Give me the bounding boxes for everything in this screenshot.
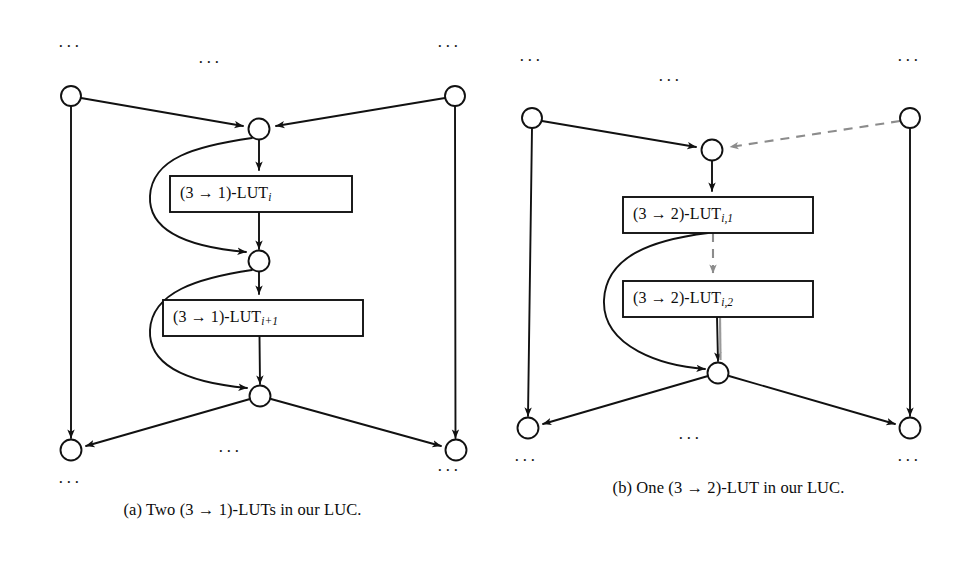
edge-bottomnode-to-bottomleft [543, 376, 708, 424]
lut-box-1-label: (3 → 1)-LUTi [180, 185, 271, 204]
node-center-bottom [250, 386, 271, 407]
node-center-bottom [708, 363, 729, 384]
lut-box-1-label: (3 → 2)-LUTi,1 [633, 206, 733, 225]
figure-page: (3 → 1)-LUTi (3 → 1)-LUTi+1 ··· ··· ··· … [0, 0, 971, 563]
edge-topleft-to-center [81, 98, 243, 126]
edge-lut2-to-bottomnode [260, 336, 261, 384]
edge-topleft-to-bottomleft [528, 128, 532, 416]
ellipsis-top-center: ··· [198, 54, 222, 71]
panel-a-caption: (a) Two (3 → 1)-LUTs in our LUC. [0, 500, 485, 520]
node-top-right [445, 86, 465, 106]
edge-topright-to-bottomright [455, 106, 456, 438]
node-top-left [61, 86, 81, 106]
edge-topright-to-center-dashed [730, 121, 900, 147]
ellipsis-bottom-center: ··· [678, 430, 702, 447]
ellipsis-bottom-left: ··· [58, 474, 82, 491]
edge-topleft-to-center [542, 121, 696, 147]
figure-panel-a: (3 → 1)-LUTi (3 → 1)-LUTi+1 ··· ··· ··· … [0, 0, 485, 563]
edge-bottomnode-to-bottomright [729, 376, 895, 424]
ellipsis-top-center: ··· [658, 72, 682, 89]
node-center-mid [249, 251, 270, 272]
lut-box-2-label: (3 → 1)-LUTi+1 [173, 309, 278, 328]
node-bottom-left [61, 440, 82, 461]
ellipsis-bottom-left: ··· [514, 452, 538, 469]
edge-bottomnode-to-bottomleft [86, 399, 250, 446]
ellipsis-top-right: ··· [437, 38, 461, 55]
node-bottom-left [518, 418, 539, 439]
ellipsis-top-left: ··· [519, 52, 543, 69]
panel-b-caption: (b) One (3 → 2)-LUT in our LUC. [486, 478, 971, 498]
ellipsis-top-right: ··· [897, 52, 921, 69]
edge-lut2-to-bottomnode [717, 317, 718, 361]
edge-topright-to-center [276, 98, 445, 126]
ellipsis-bottom-right: ··· [897, 452, 921, 469]
node-top-left [522, 108, 542, 128]
node-center-top [702, 140, 723, 161]
edge-lut2-gray-overlay [720, 317, 721, 360]
figure-panel-b: (3 → 2)-LUTi,1 (3 → 2)-LUTi,2 ··· ··· ··… [486, 0, 971, 563]
lut-box-2-label: (3 → 2)-LUTi,2 [633, 290, 733, 309]
node-bottom-right [446, 440, 467, 461]
node-bottom-right [900, 418, 921, 439]
node-center-top [249, 119, 270, 140]
ellipsis-bottom-center: ··· [218, 443, 242, 460]
ellipsis-bottom-right: ··· [437, 462, 461, 479]
node-top-right [900, 108, 920, 128]
edge-bottomnode-to-bottomright [271, 399, 441, 446]
ellipsis-top-left: ··· [58, 38, 82, 55]
